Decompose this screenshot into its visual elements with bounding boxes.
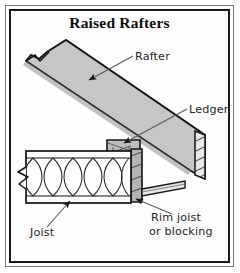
rafter-detail-drawing: Rafter Ledger Joist Rim joist or blockin…: [9, 9, 230, 263]
figure-root: Raised Rafters: [0, 0, 240, 273]
rafter-end-grain: [192, 131, 208, 181]
label-joist: Joist: [29, 226, 55, 239]
label-rafter: Rafter: [135, 50, 170, 63]
label-rim-joist-line2: or blocking: [149, 225, 213, 238]
horizontal-board: [142, 181, 185, 196]
label-rim-joist-line1: Rim joist: [151, 211, 201, 224]
leader-joist: [47, 201, 70, 227]
label-ledger: Ledger: [189, 103, 229, 116]
joist-band: [18, 151, 131, 203]
